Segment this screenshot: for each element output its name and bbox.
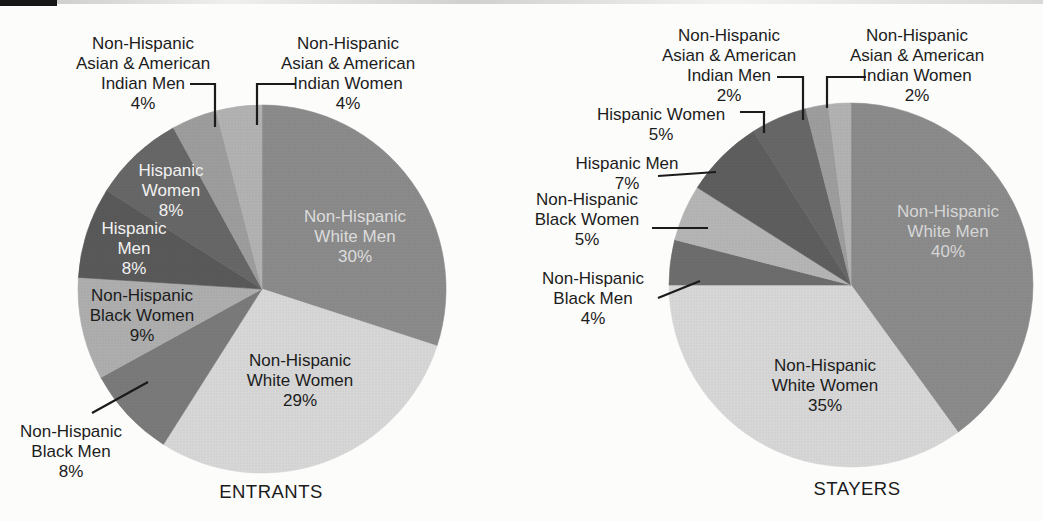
halftone-texture-overlay	[78, 105, 446, 473]
pie-charts-svg	[0, 0, 1043, 521]
halftone-texture-overlay	[669, 103, 1033, 467]
figure-canvas: Non-HispanicWhite Men30%Non-HispanicWhit…	[0, 0, 1043, 521]
